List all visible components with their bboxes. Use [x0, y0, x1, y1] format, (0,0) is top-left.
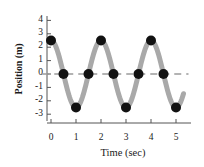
data-point: [146, 36, 156, 46]
data-point: [171, 103, 181, 113]
data-point: [96, 36, 106, 46]
chart-figure: Position (m) Time (sec) 4 3 2 1 0 -1 -2 …: [0, 0, 204, 167]
data-point: [59, 69, 69, 79]
y-tick-marks: [47, 20, 51, 114]
plot-area: [0, 0, 204, 167]
data-point: [121, 103, 131, 113]
data-point: [71, 103, 81, 113]
data-point: [46, 36, 56, 46]
x-tick-marks: [51, 119, 176, 123]
data-point: [109, 69, 119, 79]
data-point: [159, 69, 169, 79]
data-point: [134, 69, 144, 79]
data-point-markers: [46, 36, 181, 113]
data-point: [84, 69, 94, 79]
